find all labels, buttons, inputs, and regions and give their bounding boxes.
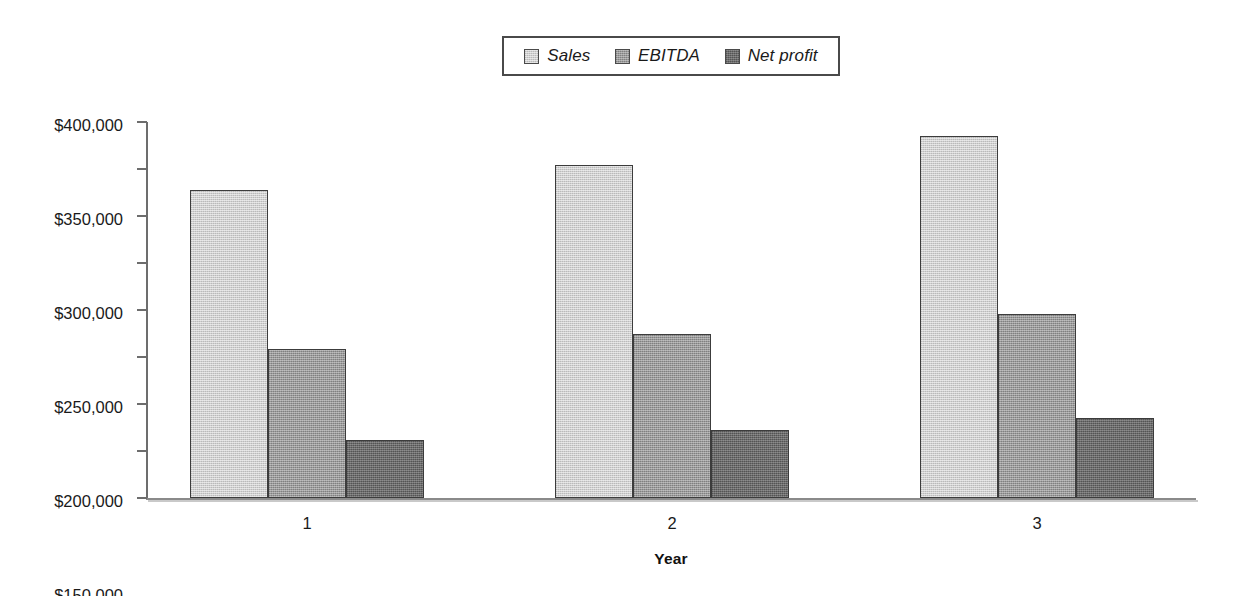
legend-item-sales: Sales — [524, 46, 590, 66]
y-tick-mark: $0 — [137, 497, 147, 499]
bar-sales-year-3 — [920, 136, 998, 498]
legend-swatch-icon-net-profit — [725, 49, 740, 64]
legend-item-net-profit: Net profit — [725, 46, 818, 66]
bar-net-profit-year-2 — [711, 430, 789, 498]
bar-ebitda-year-3 — [998, 314, 1076, 498]
y-tick-label: $350,000 — [54, 210, 123, 229]
y-tick-mark: $100,000 — [137, 403, 147, 405]
y-tick-label: $250,000 — [54, 398, 123, 417]
legend-label-ebitda: EBITDA — [638, 46, 700, 66]
y-tick-label: $200,000 — [54, 492, 123, 511]
bar-net-profit-year-3 — [1076, 418, 1154, 498]
x-axis-shadow — [148, 500, 1198, 502]
x-tick-label: 1 — [302, 514, 311, 533]
y-tick-mark: $400,000 — [137, 121, 147, 123]
y-tick-mark: $250,000 — [137, 262, 147, 264]
y-tick-mark: $350,000 — [137, 168, 147, 170]
y-tick-mark: $200,000 — [137, 309, 147, 311]
y-tick-label: $150,000 — [54, 586, 123, 596]
chart-legend: Sales EBITDA Net profit — [502, 36, 840, 76]
y-tick-label: $400,000 — [54, 116, 123, 135]
legend-label-sales: Sales — [547, 46, 590, 66]
bar-chart: Sales EBITDA Net profit $0$50,000$100,00… — [0, 0, 1247, 596]
y-tick-mark: $300,000 — [137, 215, 147, 217]
bar-ebitda-year-1 — [268, 349, 346, 498]
legend-swatch-icon-ebitda — [615, 49, 630, 64]
x-axis-title: Year — [654, 550, 688, 568]
legend-item-ebitda: EBITDA — [615, 46, 700, 66]
x-tick-label: 2 — [667, 514, 676, 533]
y-tick-label: $300,000 — [54, 304, 123, 323]
legend-label-net-profit: Net profit — [748, 46, 818, 66]
legend-swatch-icon-sales — [524, 49, 539, 64]
plot-area: $0$50,000$100,000$150,000$200,000$250,00… — [146, 118, 1196, 498]
bar-net-profit-year-1 — [346, 440, 424, 498]
y-tick-mark: $50,000 — [137, 450, 147, 452]
x-tick-label: 3 — [1032, 514, 1041, 533]
y-tick-mark: $150,000 — [137, 356, 147, 358]
bar-sales-year-2 — [555, 165, 633, 498]
bar-ebitda-year-2 — [633, 334, 711, 498]
bar-sales-year-1 — [190, 190, 268, 498]
